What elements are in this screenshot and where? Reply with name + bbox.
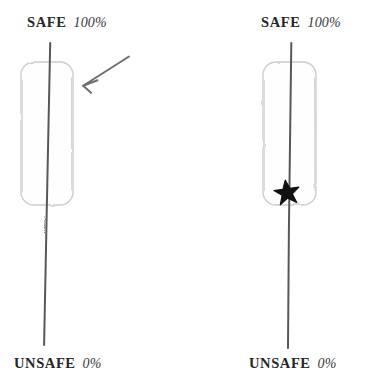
- panel-left-graphics: [0, 0, 187, 389]
- figure-canvas: SAFE100% UNSAFE0%: [0, 0, 374, 389]
- safe-label-right: SAFE100%: [261, 14, 341, 30]
- safe-value-left: 100%: [73, 15, 106, 30]
- safe-word-left: SAFE: [27, 14, 66, 30]
- safe-label-left: SAFE100%: [27, 14, 107, 30]
- panel-right-graphics: [187, 0, 374, 389]
- unsafe-label-right: UNSAFE0%: [249, 355, 337, 371]
- unsafe-word-right: UNSAFE: [249, 355, 311, 371]
- safe-value-right: 100%: [307, 15, 340, 30]
- panel-right: SAFE100% UNSAFE0%: [187, 0, 374, 389]
- panel-left: SAFE100% UNSAFE0%: [0, 0, 187, 389]
- safe-word-right: SAFE: [261, 14, 300, 30]
- annotation-arrow-icon: [83, 57, 129, 93]
- unsafe-word-left: UNSAFE: [14, 355, 76, 371]
- unsafe-value-right: 0%: [318, 356, 337, 371]
- unsafe-label-left: UNSAFE0%: [14, 355, 102, 371]
- unsafe-value-left: 0%: [83, 356, 102, 371]
